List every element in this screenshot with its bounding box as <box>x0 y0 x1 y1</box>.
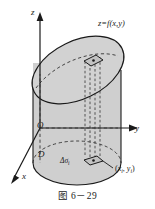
region-label-D: D <box>38 150 45 159</box>
axis-label-z: z <box>31 8 35 17</box>
point-paren-close: ) <box>132 164 135 173</box>
element-area-label-subscript: i <box>68 160 70 166</box>
figure-container: z y x O D z=f(x,y) Δσi (xi, yi) 图 6－29 <box>0 0 155 209</box>
axis-label-x: x <box>22 172 26 181</box>
origin-label: O <box>37 121 44 130</box>
surface-equation-label: z=f(x,y) <box>98 19 125 28</box>
element-area-label-base: Δσ <box>60 156 68 165</box>
axis-label-y: y <box>135 124 139 133</box>
element-area-label: Δσi <box>60 157 70 166</box>
sample-point-label: (xi, yi) <box>115 165 135 174</box>
figure-caption: 图 6－29 <box>0 188 155 202</box>
